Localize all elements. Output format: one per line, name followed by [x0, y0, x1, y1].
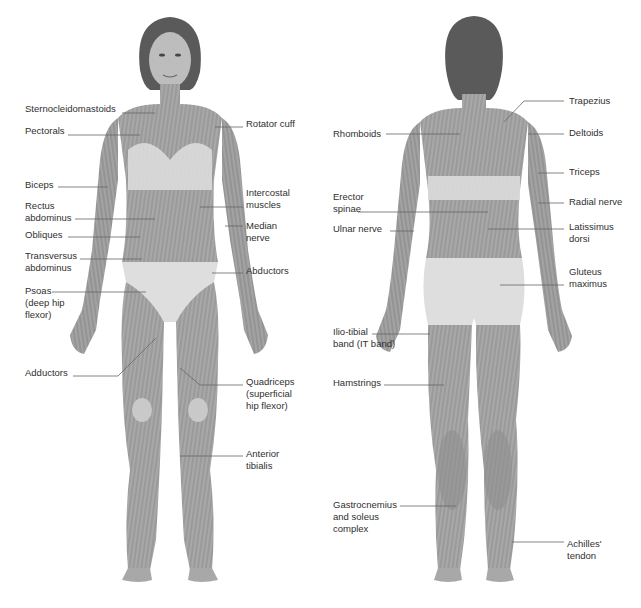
label-triceps: Triceps — [569, 166, 600, 178]
label-transversus-abdominus: Transversus abdominus — [25, 250, 77, 274]
label-quadriceps: Quadriceps (superficial hip flexor) — [246, 376, 295, 412]
label-rhomboids: Rhomboids — [333, 128, 381, 140]
label-sternocleidomastoids: Sternocleidomastoids — [25, 103, 116, 115]
label-abductors: Abductors — [246, 265, 289, 277]
label-biceps: Biceps — [25, 179, 54, 191]
front-figure — [70, 17, 268, 582]
label-pectorals: Pectorals — [25, 125, 65, 137]
label-ilio-tibial-band: Ilio-tibial band (IT band) — [333, 326, 395, 350]
label-median-nerve: Median nerve — [246, 220, 277, 244]
label-trapezius: Trapezius — [569, 95, 610, 107]
label-anterior-tibialis: Anterior tibialis — [246, 448, 279, 472]
label-latissimus-dorsi: Latissimus dorsi — [569, 221, 614, 245]
label-rotator-cuff: Rotator cuff — [246, 118, 295, 130]
label-adductors: Adductors — [25, 367, 68, 379]
label-deltoids: Deltoids — [569, 127, 603, 139]
anatomy-diagram: Sternocleidomastoids Pectorals Biceps Re… — [0, 0, 641, 608]
label-radial-nerve: Radial nerve — [569, 196, 622, 208]
label-hamstrings: Hamstrings — [333, 377, 381, 389]
label-rectus-abdominus: Rectus abdominus — [25, 200, 71, 224]
label-erector-spinae: Erector spinae — [333, 191, 364, 215]
label-ulnar-nerve: Ulnar nerve — [333, 223, 382, 235]
muscle-figures — [0, 0, 641, 608]
label-intercostal-muscles: Intercostal muscles — [246, 187, 290, 211]
label-obliques: Obliques — [25, 229, 63, 241]
label-gastrocnemius-soleus: Gastrocnemius and soleus complex — [333, 499, 397, 535]
label-gluteus-maximus: Gluteus maximus — [569, 266, 607, 290]
label-psoas: Psoas (deep hip flexor) — [25, 285, 65, 321]
label-achilles-tendon: Achilles' tendon — [567, 538, 602, 562]
